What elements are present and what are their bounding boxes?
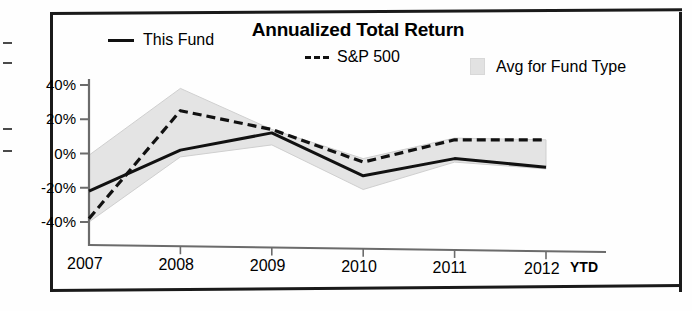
x-axis-tick-label: 2009 (250, 258, 286, 274)
chart-container: Annualized Total Return This Fund S&P 50… (50, 12, 682, 292)
x-axis-tick-label: 2007 (67, 256, 103, 272)
x-axis-tick-label: 2011 (433, 260, 467, 276)
x-axis-tick-label: 2012 (524, 261, 560, 277)
x-axis-tick-label: 2010 (341, 259, 377, 275)
x-axis-ytd-label: YTD (570, 260, 598, 274)
y-axis-tick-label: 20% (46, 111, 76, 126)
scanned-page: Annualized Total Return This Fund S&P 50… (0, 0, 692, 311)
y-axis-tick-label: -20% (41, 180, 76, 195)
y-axis-tick-label: 40% (46, 77, 76, 92)
x-axis-tick-label: 2008 (158, 257, 194, 273)
page-margin-marks (0, 0, 48, 311)
y-axis-tick-label: -40% (41, 214, 76, 229)
plot-area (50, 12, 682, 292)
y-axis-tick-label: 0% (54, 146, 76, 161)
